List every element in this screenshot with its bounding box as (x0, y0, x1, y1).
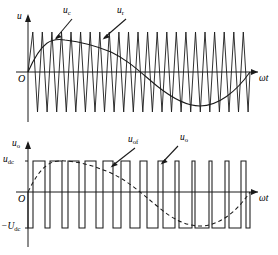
bottom-panel-pwm-output: uo udc O −Udc ωt uof uo (0, 127, 278, 255)
output-label: uo (180, 133, 188, 143)
fundamental-label: uof (128, 135, 138, 145)
top-panel-svg (0, 0, 278, 128)
top-y-axis-arrowhead (25, 14, 31, 22)
top-x-axis-arrowhead (251, 69, 258, 75)
bottom-x-axis-arrowhead (251, 189, 258, 195)
pwm-output-wave (28, 161, 250, 228)
top-panel-carrier-reference: u O ωt uc ur (0, 0, 278, 128)
level-positive-label: udc (3, 155, 14, 165)
figure-root: u O ωt uc ur (0, 0, 278, 255)
fundamental-sine-wave (28, 161, 250, 226)
carrier-annotation-arrowhead (55, 34, 62, 40)
top-x-axis-label: ωt (259, 74, 268, 84)
bottom-panel-svg (0, 127, 278, 255)
fundamental-label-sub: of (133, 138, 139, 145)
bottom-x-axis-label: ωt (259, 194, 268, 204)
top-origin-label: O (18, 74, 25, 84)
reference-label: ur (117, 6, 124, 16)
output-annotation-arrowhead (161, 159, 168, 165)
bottom-y-axis-label: uo (12, 139, 20, 149)
carrier-label-sub: c (68, 9, 71, 16)
carrier-label: uc (63, 6, 71, 16)
reference-label-sub: r (122, 9, 124, 16)
level-negative-label: −Udc (1, 222, 21, 232)
bottom-origin-label: O (18, 194, 25, 204)
level-positive-label-sub: dc (8, 158, 14, 165)
top-y-axis-label: u (17, 12, 22, 22)
output-label-sub: o (185, 136, 188, 143)
level-negative-label-main: −U (1, 221, 14, 231)
bottom-y-axis-arrowhead (25, 141, 31, 149)
bottom-y-axis-label-sub: o (17, 142, 20, 149)
level-negative-label-sub: dc (14, 225, 20, 232)
